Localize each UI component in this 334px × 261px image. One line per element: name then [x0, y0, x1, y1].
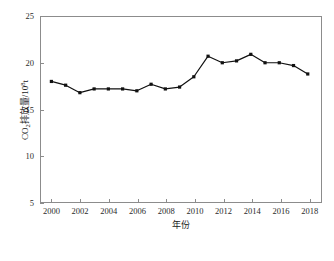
x-tick-label-2018: 2018	[301, 206, 318, 216]
data-point-2014	[249, 53, 252, 56]
data-series-layer	[40, 16, 322, 203]
x-tick-label-2004: 2004	[100, 206, 117, 216]
data-point-2013	[235, 59, 238, 62]
y-axis-title-superscript: 8	[19, 82, 26, 85]
data-point-2017	[292, 64, 295, 67]
data-point-2001	[64, 84, 67, 87]
x-tick-label-2010: 2010	[186, 206, 203, 216]
data-point-2009	[178, 85, 181, 88]
data-point-2010	[192, 75, 195, 78]
data-point-2007	[149, 83, 152, 86]
data-point-2015	[263, 61, 266, 64]
x-tick-label-2014: 2014	[244, 206, 261, 216]
y-tick-mark-5	[40, 203, 44, 204]
y-axis-title-mid: 排放量/10	[20, 85, 30, 124]
x-tick-label-2016: 2016	[273, 206, 290, 216]
x-tick-label-2006: 2006	[129, 206, 146, 216]
series-markers-co2	[50, 53, 310, 95]
co2-emissions-line-chart: 25 20 15 10 5 2000 2002 2004 2006 2008 2…	[0, 0, 334, 261]
data-point-2003	[93, 87, 96, 90]
data-point-2006	[135, 89, 138, 92]
data-point-2000	[50, 80, 53, 83]
data-point-2016	[278, 61, 281, 64]
x-tick-label-2000: 2000	[43, 206, 60, 216]
data-point-2004	[107, 87, 110, 90]
y-axis-title: CO2排放量/108t	[18, 40, 31, 180]
data-point-2012	[221, 61, 224, 64]
y-axis-title-subscript: 2	[24, 124, 31, 127]
x-tick-label-2002: 2002	[72, 206, 89, 216]
data-point-2005	[121, 87, 124, 90]
data-point-2002	[78, 91, 81, 94]
y-axis-title-holder: CO2排放量/108t	[0, 16, 22, 203]
data-point-2008	[164, 87, 167, 90]
data-point-2018	[306, 72, 309, 75]
x-tick-label-2012: 2012	[215, 206, 232, 216]
x-axis-title: 年份	[40, 218, 322, 231]
x-tick-label-2008: 2008	[158, 206, 175, 216]
y-axis-title-prefix: CO	[20, 127, 30, 140]
data-point-2011	[206, 55, 209, 58]
